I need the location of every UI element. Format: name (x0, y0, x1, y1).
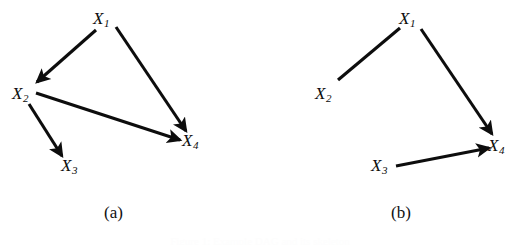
edge-x2-to-x4 (36, 93, 180, 140)
node-sub-a-x1: 1 (104, 17, 110, 29)
node-sub-b-x4: 4 (499, 144, 505, 156)
node-base-b-x1: X (399, 9, 409, 28)
node-sub-a-x4: 4 (193, 139, 199, 151)
node-sub-a-x2: 2 (23, 92, 29, 104)
edge-x1-to-x2 (37, 30, 96, 82)
node-base-b-x3: X (371, 156, 381, 175)
node-label-b-x3: X3 (371, 157, 387, 176)
panel-a-edges (29, 27, 186, 156)
edge-x2-to-x3 (29, 104, 62, 156)
figure-root: X1 X2 X3 X4 X1 X2 X3 X4 (a) (b) Figure 1… (0, 0, 508, 245)
node-label-a-x4: X4 (182, 132, 198, 151)
node-label-b-x2: X2 (315, 85, 331, 104)
node-sub-b-x3: 3 (382, 164, 388, 176)
edge-x1-to-x4 (116, 27, 186, 131)
graph-edges-canvas (0, 0, 508, 245)
node-label-b-x1: X1 (399, 10, 415, 29)
edge-x3-to-x4 (396, 148, 489, 166)
node-label-a-x2: X2 (12, 85, 28, 104)
node-sub-a-x3: 3 (72, 164, 78, 176)
node-label-a-x3: X3 (61, 157, 77, 176)
node-base-a-x1: X (93, 9, 103, 28)
node-base-a-x4: X (182, 131, 192, 150)
panel-b-edges (338, 28, 492, 166)
edge-x1-to-x4 (421, 29, 492, 134)
node-base-a-x2: X (12, 84, 22, 103)
node-sub-b-x2: 2 (326, 92, 332, 104)
node-label-b-x4: X4 (488, 137, 504, 156)
node-sub-b-x1: 1 (410, 17, 416, 29)
clipped-figure-caption: Figure 1: Example DAG and its skeleton (150, 236, 370, 245)
panel-caption-b: (b) (391, 204, 411, 221)
node-base-a-x3: X (61, 156, 71, 175)
node-label-a-x1: X1 (93, 10, 109, 29)
panel-caption-a: (a) (104, 204, 123, 221)
node-base-b-x4: X (488, 136, 498, 155)
node-base-b-x2: X (315, 84, 325, 103)
edge-x2-x1-undirected (338, 28, 400, 80)
